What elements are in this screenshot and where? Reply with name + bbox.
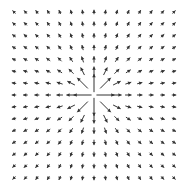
vector-arrow	[47, 10, 50, 14]
vector-arrow	[172, 164, 176, 167]
vector-arrow	[138, 129, 142, 132]
arrow-head	[92, 131, 96, 134]
vector-arrow	[137, 117, 142, 120]
vector-arrow	[47, 34, 50, 38]
vector-arrow	[12, 70, 16, 73]
arrow-head	[139, 82, 143, 85]
vector-arrow	[70, 57, 73, 62]
vector-arrow	[126, 10, 129, 14]
vector-arrow	[115, 57, 118, 62]
arrow-head	[81, 153, 85, 156]
vector-arrow	[35, 70, 39, 73]
vector-arrow	[12, 81, 16, 85]
vector-arrow	[104, 115, 108, 123]
vector-arrow	[81, 176, 85, 180]
vector-arrow	[35, 58, 39, 61]
vector-arrow	[172, 70, 176, 73]
arrow-head	[92, 120, 96, 123]
vector-arrow	[172, 46, 176, 49]
vector-arrow	[35, 164, 38, 168]
vector-arrow	[160, 70, 164, 73]
vector-arrow	[47, 22, 50, 26]
vector-arrow	[13, 176, 17, 180]
vector-arrow	[57, 117, 62, 120]
vector-arrow	[138, 152, 141, 156]
vector-arrow	[172, 152, 176, 155]
vector-arrow	[70, 176, 73, 180]
vector-arrow	[12, 34, 16, 37]
arrow-head	[92, 142, 96, 145]
vector-arrow	[115, 164, 118, 168]
vector-arrow	[81, 152, 85, 157]
vector-arrow	[70, 10, 73, 14]
arrow-head	[139, 105, 143, 108]
arrow-head	[13, 11, 17, 15]
vector-arrow	[92, 176, 96, 180]
vector-arrow	[161, 22, 165, 26]
vector-arrow	[47, 164, 50, 168]
vector-arrow	[149, 152, 153, 156]
vector-arrow	[104, 68, 108, 76]
vector-arrow	[35, 152, 39, 156]
vector-arrow	[46, 93, 51, 97]
vector-arrow	[12, 22, 16, 25]
vector-arrow	[115, 152, 118, 156]
arrow-head	[46, 82, 50, 85]
vector-arrow	[160, 105, 165, 109]
vector-arrow	[12, 129, 16, 132]
vector-arrow	[23, 105, 28, 109]
vector-arrow	[114, 69, 119, 74]
arrow-head	[92, 22, 96, 25]
arrow-head	[34, 93, 37, 97]
vector-arrow	[59, 22, 62, 26]
arrow-head	[23, 93, 26, 97]
vector-arrow	[138, 176, 141, 180]
vector-arrow	[35, 129, 39, 132]
vector-arrow	[12, 93, 16, 97]
vector-arrow	[59, 34, 62, 38]
vector-arrow	[115, 45, 118, 50]
vector-arrow	[67, 105, 75, 109]
vector-arrow	[92, 10, 96, 14]
vector-arrow	[126, 22, 129, 26]
vector-arrow	[161, 152, 165, 155]
vector-arrow	[138, 58, 142, 61]
vector-arrow	[12, 46, 16, 49]
vector-arrow	[58, 10, 61, 14]
vector-arrow	[100, 78, 111, 89]
vector-arrow	[13, 11, 17, 15]
vector-arrow	[58, 176, 61, 180]
vector-arrow	[92, 33, 96, 38]
arrow-head	[104, 45, 107, 49]
vector-arrow	[125, 93, 131, 97]
vector-arrow	[149, 10, 152, 14]
vector-arrow	[149, 140, 153, 143]
vector-arrow	[149, 34, 153, 38]
arrow-head	[104, 33, 108, 36]
vector-arrow	[115, 10, 118, 14]
vector-arrow	[24, 152, 28, 155]
vector-arrow	[58, 140, 61, 144]
vector-arrow	[149, 70, 153, 73]
vector-arrow	[172, 129, 176, 132]
arrow-head	[92, 10, 96, 13]
vector-arrow	[172, 34, 176, 37]
vector-arrow	[160, 82, 165, 86]
vector-arrow	[104, 45, 107, 50]
vector-arrow	[104, 176, 108, 180]
vector-arrow	[70, 164, 73, 168]
vector-arrow	[24, 164, 28, 168]
vector-arrow	[74, 93, 92, 97]
arrow-head	[34, 82, 37, 86]
vector-arrow	[12, 152, 16, 155]
vector-arrow	[104, 152, 108, 157]
vector-arrow	[59, 152, 62, 156]
arrow-head	[150, 93, 153, 97]
vector-arrow	[34, 93, 39, 97]
vector-arrow	[172, 93, 176, 97]
vector-arrow	[92, 74, 96, 92]
arrow-head	[92, 113, 96, 116]
arrow-head	[81, 33, 85, 36]
arrow-head	[162, 93, 165, 97]
vector-arrow	[46, 82, 51, 85]
